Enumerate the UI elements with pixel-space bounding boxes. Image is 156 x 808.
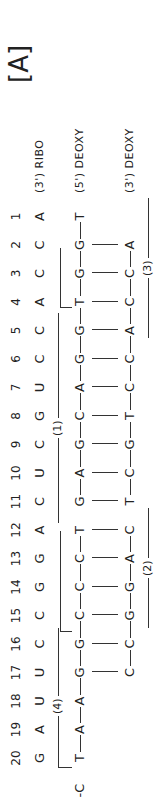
base-pair-bond [92, 529, 118, 530]
backbone-dash [130, 593, 131, 610]
rna-cell: C [30, 634, 50, 654]
base-pair-bond [92, 444, 118, 445]
dna-lower-strand-label: (3') DEOXY [120, 128, 140, 193]
rna-cell: U [30, 691, 50, 711]
num-cell: 20 [6, 748, 26, 768]
num-cell: 12 [6, 520, 26, 540]
rna-cell: A [30, 720, 50, 740]
rna-row: GAUUCCGGACUCGUCCACCA [30, 0, 50, 808]
num-cell: 7 [6, 378, 26, 398]
num-cell: 13 [6, 549, 26, 569]
position-numbers-row: 2019181716151413121110987654321 [6, 0, 26, 808]
backbone-dash [80, 251, 81, 268]
base-pair-bond [92, 301, 118, 302]
num-cell: 2 [6, 235, 26, 255]
num-cell: 16 [6, 634, 26, 654]
backbone-dash [130, 251, 131, 268]
rna-cell: C [30, 349, 50, 369]
backbone-dash [130, 650, 131, 667]
rna-cell: C [30, 321, 50, 341]
backbone-dash [130, 365, 131, 382]
rna-cell: C [30, 264, 50, 284]
backbone-dash [130, 479, 131, 496]
bracket-right-tick [60, 307, 72, 308]
rna-cell: A [30, 292, 50, 312]
backbone-dash [80, 422, 81, 439]
backbone-dash [80, 679, 81, 696]
base-pair-bond [92, 387, 118, 388]
num-cell: 5 [6, 321, 26, 341]
rna-cell: G [30, 549, 50, 569]
dna-upper-leading: -C [70, 781, 90, 801]
rna-cell: U [30, 663, 50, 683]
base-pair-bond [92, 643, 118, 644]
num-cell: 8 [6, 406, 26, 426]
base-pair-bond [92, 586, 118, 587]
num-cell: 3 [6, 264, 26, 284]
segment-4-label: (4) [52, 696, 64, 716]
backbone-dash [80, 451, 81, 468]
base-pair-bond [92, 501, 118, 502]
num-cell: 17 [6, 663, 26, 683]
num-cell: 14 [6, 577, 26, 597]
base-pair-bond [92, 558, 118, 559]
backbone-dash [80, 565, 81, 582]
rna-dna-hybrid-diagram: [A] 2019181716151413121110987654321 GAUU… [0, 0, 156, 808]
backbone-dash [80, 622, 81, 639]
base-pair-bond [92, 472, 118, 473]
num-cell: 11 [6, 492, 26, 512]
backbone-dash [130, 337, 131, 354]
bracket-right-top [60, 248, 61, 308]
rna-cell: A [30, 207, 50, 227]
num-cell: 19 [6, 720, 26, 740]
num-cell: 6 [6, 349, 26, 369]
backbone-dash [130, 308, 131, 325]
base-pair-bond [92, 415, 118, 416]
backbone-dash [130, 280, 131, 297]
segment-c-bracket [60, 531, 61, 632]
num-cell: 4 [6, 292, 26, 312]
segment-1-label: (1) [52, 418, 64, 438]
base-pair-bond [92, 244, 118, 245]
segment-4-left-tick [58, 767, 72, 768]
backbone-dash [80, 394, 81, 411]
rna-strand-label: (3') RIBO [30, 139, 50, 193]
backbone-dash [80, 308, 81, 325]
backbone-dash [80, 223, 81, 240]
backbone-dash [130, 565, 131, 582]
backbone-dash [80, 736, 81, 753]
rna-cell: C [30, 435, 50, 455]
rna-cell: A [30, 520, 50, 540]
num-cell: 1 [6, 207, 26, 227]
num-cell: 15 [6, 606, 26, 626]
backbone-dash [80, 280, 81, 297]
num-cell: 18 [6, 691, 26, 711]
backbone-dash [130, 422, 131, 439]
backbone-dash [130, 451, 131, 468]
rna-cell: G [30, 748, 50, 768]
backbone-dash [130, 394, 131, 411]
backbone-dash [80, 536, 81, 553]
segment-3-label: (3) [142, 258, 154, 278]
base-pair-bond [92, 330, 118, 331]
base-pair-bond [92, 358, 118, 359]
rna-cell: U [30, 378, 50, 398]
backbone-dash [80, 479, 81, 496]
rna-cell: C [30, 606, 50, 626]
backbone-dash [80, 365, 81, 382]
backbone-dash [80, 593, 81, 610]
rna-cell: C [30, 235, 50, 255]
backbone-dash [80, 650, 81, 667]
num-cell: 9 [6, 435, 26, 455]
num-cell: 10 [6, 463, 26, 483]
rna-cell: G [30, 406, 50, 426]
bracket-left-tick [60, 631, 72, 632]
base-pair-bond [92, 615, 118, 616]
backbone-dash [130, 536, 131, 553]
segment-2-label: (2) [142, 558, 154, 578]
rna-cell: C [30, 492, 50, 512]
rna-cell: U [30, 463, 50, 483]
rna-cell: G [30, 577, 50, 597]
backbone-dash [80, 337, 81, 354]
base-pair-bond [92, 273, 118, 274]
